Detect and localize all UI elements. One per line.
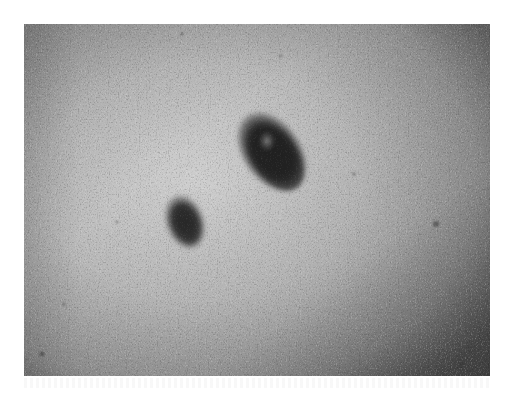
skin-photograph [24, 24, 490, 376]
skin-image-canvas [24, 24, 490, 376]
caption-bleed-through [24, 378, 490, 388]
skin-texture-dark [24, 24, 490, 376]
